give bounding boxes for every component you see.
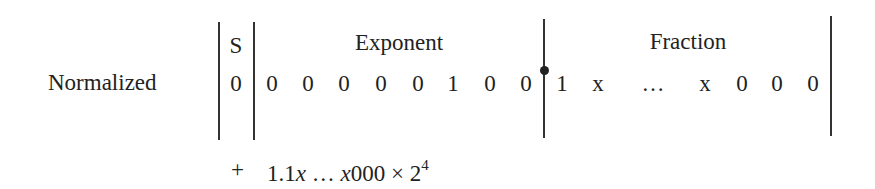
value-exponent: 4 [421, 157, 429, 173]
value-expression: 1.1x … x000 × 24 [267, 160, 429, 185]
header-sign: S [230, 34, 243, 57]
value-x-last: x [340, 161, 350, 186]
divider-sign-exponent [253, 22, 255, 140]
divider-exponent-fraction [543, 19, 545, 138]
exponent-bit: 0 [338, 72, 350, 95]
value-sign: + [231, 158, 244, 181]
fraction-bit: 0 [807, 72, 819, 95]
value-x-first: x [296, 161, 306, 186]
fraction-bit: 0 [771, 72, 783, 95]
exponent-bit: 0 [266, 72, 278, 95]
exponent-bit: 0 [520, 72, 532, 95]
divider-sign-left [218, 22, 220, 140]
value-tail: 000 × 2 [351, 161, 421, 186]
fraction-bit: 0 [736, 72, 748, 95]
fraction-bit: 1 [556, 72, 568, 95]
row-label-normalized: Normalized [48, 71, 157, 94]
exponent-bit: 0 [484, 72, 496, 95]
sign-bit: 0 [230, 72, 242, 95]
binary-point-dot [540, 66, 549, 75]
exponent-bit: 0 [375, 72, 387, 95]
header-fraction: Fraction [650, 30, 727, 53]
exponent-bit: 1 [447, 72, 459, 95]
value-ellipsis: … [306, 161, 341, 186]
exponent-bit: 0 [302, 72, 314, 95]
value-mantissa-lead: 1.1 [267, 161, 296, 186]
fraction-ellipsis: … [642, 72, 665, 95]
header-exponent: Exponent [355, 31, 443, 54]
fraction-bit: x [592, 72, 604, 95]
fraction-bit: x [699, 72, 711, 95]
divider-fraction-right [830, 16, 832, 136]
exponent-bit: 0 [412, 72, 424, 95]
